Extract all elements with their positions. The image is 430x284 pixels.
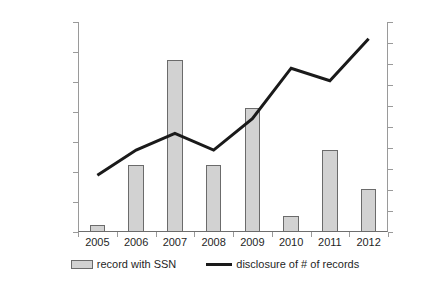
legend-item-line: disclosure of # of records [206,258,359,270]
right-tick-mark [388,64,393,65]
x-axis-tick-label: 2005 [85,236,109,248]
line-path [97,39,368,176]
line-series [78,22,388,232]
right-tick-mark [388,127,393,128]
x-tick-mark [233,232,234,237]
chart-container: 020,000,00040,000,00060,000,00080,000,00… [0,0,430,284]
x-tick-mark [156,232,157,237]
line-swatch-icon [206,263,232,266]
legend-item-bars: record with SSN [71,258,176,270]
right-tick-mark [388,85,393,86]
chart-legend: record with SSN disclosure of # of recor… [0,258,430,270]
x-axis-tick-label: 2007 [163,236,187,248]
legend-label-line: disclosure of # of records [236,258,359,270]
right-tick-mark [388,22,393,23]
right-tick-mark [388,211,393,212]
plot-area: 020,000,00040,000,00060,000,00080,000,00… [78,22,388,232]
x-axis-tick-label: 2006 [124,236,148,248]
right-tick-mark [388,148,393,149]
x-axis-tick-label: 2012 [356,236,380,248]
x-tick-mark [311,232,312,237]
x-tick-mark [78,232,79,237]
x-tick-mark [349,232,350,237]
x-axis-tick-label: 2009 [240,236,264,248]
x-tick-mark [388,232,389,237]
legend-label-bars: record with SSN [97,258,176,270]
right-tick-mark [388,169,393,170]
x-axis-tick-label: 2008 [201,236,225,248]
x-tick-mark [272,232,273,237]
x-tick-mark [194,232,195,237]
x-axis-tick-label: 2011 [318,236,342,248]
right-tick-mark [388,190,393,191]
x-tick-mark [117,232,118,237]
right-tick-mark [388,106,393,107]
bar-swatch-icon [71,260,93,269]
right-tick-mark [388,43,393,44]
x-axis-tick-label: 2010 [279,236,303,248]
